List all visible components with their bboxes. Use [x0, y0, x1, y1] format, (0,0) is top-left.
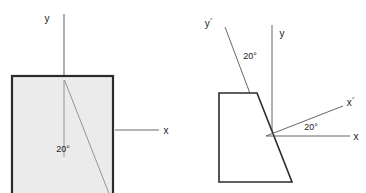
left-y-axis-label: y	[45, 13, 50, 24]
right-angle-right-label: 20°	[304, 122, 318, 132]
right-angle-top-label: 20°	[243, 51, 257, 61]
right-figure-group: y´ y 20° x x´ 20°	[205, 18, 359, 182]
left-figure-group: y 20° x	[12, 13, 169, 193]
left-angle-label: 20°	[56, 144, 70, 154]
right-y-axis-label: y	[280, 28, 285, 39]
right-x-prime-axis-label: x´	[347, 97, 355, 108]
technical-drawing-svg: y 20° x y´ y 20°	[0, 0, 366, 193]
figure-canvas: y 20° x y´ y 20°	[0, 0, 366, 193]
right-trapezoid-shape	[219, 93, 292, 182]
right-y-prime-axis-label: y´	[205, 18, 213, 29]
left-x-axis-label: x	[164, 125, 169, 136]
left-square-shape	[12, 76, 113, 193]
right-x-axis-label: x	[354, 131, 359, 142]
